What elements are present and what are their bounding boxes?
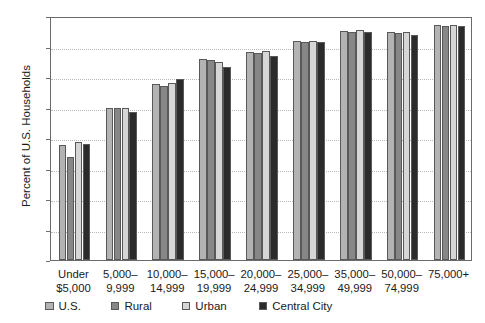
x-axis-tick-label-line: 20,000– [238,268,285,282]
x-axis-tick-label-line: 74,999 [378,282,425,296]
legend-label: Central City [272,300,332,312]
bar [122,108,130,261]
bar-group [379,16,426,260]
bar-group [332,16,379,260]
bar [442,26,450,260]
y-axis-tick-mark [46,261,50,262]
chart-figure: Percent of U.S. Households 6065707580859… [0,0,485,323]
bar-group [98,16,145,260]
bar-group [426,16,473,260]
x-axis-tick-label-line: 75,000+ [425,268,472,282]
legend-label: Rural [124,300,151,312]
bar [152,84,160,260]
bar [67,157,75,260]
bar [301,42,309,260]
bar [215,62,223,260]
x-axis-tick-label-line: Under [50,268,97,282]
bar [114,108,122,261]
bar [317,42,325,260]
x-axis-tick-label: 25,000–34,999 [284,268,331,295]
legend-label: U.S. [59,300,81,312]
bar-group [145,16,192,260]
bar [59,145,67,260]
bar [176,79,184,260]
bar [411,35,419,260]
legend-swatch-icon [182,302,191,311]
bar [168,83,176,261]
x-axis-tick-label: Under$5,000 [50,268,97,295]
x-axis-tick-label: 50,000–74,999 [378,268,425,295]
bar [293,41,301,260]
bar [364,32,372,260]
x-axis-tick-label: 5,000–9,999 [97,268,144,295]
bar [129,112,137,260]
bar-group [285,16,332,260]
x-axis-tick-label-line: 24,999 [238,282,285,296]
legend-item[interactable]: U.S. [45,300,81,312]
bar [348,32,356,260]
bar [387,32,395,260]
bar-group [192,16,239,260]
legend-swatch-icon [259,302,268,311]
x-axis-tick-label: 35,000–49,999 [331,268,378,295]
legend-swatch-icon [111,302,120,311]
x-axis-tick-label-line: 15,000– [191,268,238,282]
x-axis-tick-label-line: 9,999 [97,282,144,296]
legend-label: Urban [195,300,226,312]
bar [83,144,91,260]
bar-group [51,16,98,260]
bar-group [239,16,286,260]
bar [246,52,254,260]
x-axis-tick-label-line: 34,999 [284,282,331,296]
bar [340,31,348,260]
bar [356,30,364,260]
x-axis-tick-label-line: 14,999 [144,282,191,296]
bar [395,33,403,260]
legend-item[interactable]: Urban [182,300,227,312]
bar [75,142,83,260]
legend-item[interactable]: Central City [259,300,333,312]
legend-swatch-icon [45,302,54,311]
bar [254,53,262,260]
x-axis-tick-label-line: 19,999 [191,282,238,296]
x-axis-tick-label: 15,000–19,999 [191,268,238,295]
x-axis-tick-label: 20,000–24,999 [238,268,285,295]
x-axis-tick-label: 75,000+ [425,268,472,282]
bar [309,41,317,260]
plot-area [50,17,472,261]
x-axis-tick-label-line: 25,000– [284,268,331,282]
legend-item[interactable]: Rural [111,300,152,312]
bar [270,56,278,260]
x-axis-tick-label-line: 35,000– [331,268,378,282]
bar [223,67,231,260]
bar [403,32,411,260]
x-axis-tick-label-line: 50,000– [378,268,425,282]
bar [106,108,114,261]
x-axis-tick-label-line: 5,000– [97,268,144,282]
chart-legend: U.S.RuralUrbanCentral City [45,300,332,312]
x-axis-tick-label-line: $5,000 [50,282,97,296]
bar [160,86,168,260]
bar [199,59,207,260]
bar [458,26,466,260]
bar [262,51,270,260]
x-axis-tick-label: 10,000–14,999 [144,268,191,295]
bar [434,25,442,260]
x-axis-tick-label-line: 49,999 [331,282,378,296]
x-axis-tick-label-line: 10,000– [144,268,191,282]
bar [450,25,458,260]
bar [207,60,215,260]
